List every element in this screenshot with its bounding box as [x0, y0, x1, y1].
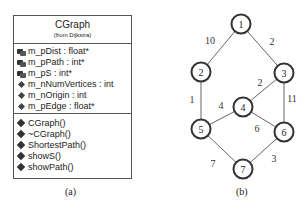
node-label: 1	[239, 19, 244, 30]
edge-weight: 4	[219, 100, 224, 111]
edge-weight: 2	[258, 77, 263, 88]
node-label: 5	[199, 124, 204, 135]
graph-node: 5	[192, 120, 211, 139]
weighted-graph: 10212114673 1234567	[0, 0, 307, 209]
graph-node: 6	[275, 123, 294, 142]
edge-weight: 6	[255, 123, 260, 134]
edge-weight: 3	[272, 153, 277, 164]
node-label: 7	[241, 164, 246, 175]
graph-node: 7	[234, 160, 253, 179]
node-label: 3	[282, 68, 287, 79]
graph-node: 3	[275, 64, 294, 83]
graph-node: 1	[232, 15, 251, 34]
edge-weight: 2	[270, 36, 275, 47]
edge-weight: 1	[190, 94, 195, 105]
edge-weight: 7	[211, 158, 216, 169]
node-label: 2	[199, 67, 204, 78]
graph-node: 4	[234, 98, 253, 117]
caption-b: (b)	[236, 186, 248, 197]
edge-weight: 10	[205, 35, 215, 46]
graph-node: 2	[192, 63, 211, 82]
node-label: 6	[282, 127, 287, 138]
node-label: 4	[241, 102, 246, 113]
edge-weight: 11	[287, 93, 297, 104]
